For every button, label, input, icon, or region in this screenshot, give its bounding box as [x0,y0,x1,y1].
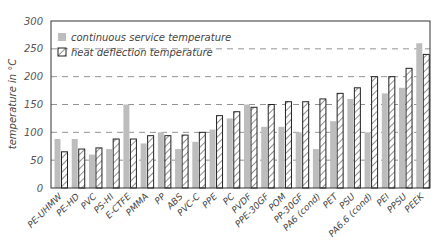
bar-continuous-service [278,127,284,188]
y-tick-label: 50 [30,155,43,166]
y-tick-label: 0 [37,183,43,194]
y-tick-label: 250 [24,43,43,54]
bar-heat-deflection [389,77,395,188]
bar-heat-deflection [320,99,326,188]
bar-continuous-service [313,149,319,188]
bar-continuous-service [123,105,129,189]
bar-continuous-service [141,143,147,188]
y-tick-label: 300 [24,16,43,27]
bar-heat-deflection [268,105,274,189]
bar-heat-deflection [285,102,291,188]
bar-heat-deflection [423,54,429,188]
bar-continuous-service [347,99,353,188]
bar-heat-deflection [337,93,343,188]
legend-swatch-gray [58,33,66,41]
bar-continuous-service [210,130,216,188]
y-axis-title: temperature in °C [7,59,18,150]
x-axis-labels: PE-UHMWPE-HDPVCPS-HIE-CTFEPMMAPPABSPVC-C… [26,190,427,239]
bar-heat-deflection [96,148,102,188]
bar-continuous-service [175,149,181,188]
bars [55,43,430,188]
bar-heat-deflection [354,88,360,188]
x-category-label: PPE [200,191,219,210]
y-axis-ticks: 050100150200250300 [24,16,43,194]
bar-heat-deflection [165,136,171,188]
legend-label-heat-deflection: heat deflection temperature [71,47,213,58]
y-tick-label: 200 [24,71,43,82]
bar-heat-deflection [113,139,119,188]
bar-continuous-service [158,132,164,188]
bar-heat-deflection [148,136,154,188]
bar-continuous-service [106,149,112,188]
bar-continuous-service [227,118,233,188]
bar-continuous-service [72,139,78,188]
bar-continuous-service [416,43,422,188]
bar-heat-deflection [372,77,378,188]
bar-heat-deflection [217,116,223,188]
bar-heat-deflection [406,68,412,188]
bar-continuous-service [261,127,267,188]
y-tick-label: 100 [24,127,43,138]
bar-heat-deflection [251,107,257,188]
bar-chart: 050100150200250300 PE-UHMWPE-HDPVCPS-HIE… [0,0,448,249]
bar-continuous-service [330,121,336,188]
x-category-label: PET [321,190,341,210]
bar-heat-deflection [79,149,85,188]
bar-continuous-service [244,105,250,189]
bar-continuous-service [296,132,302,188]
bar-continuous-service [365,132,371,188]
bar-heat-deflection [303,102,309,188]
legend-swatch-hatched [58,48,66,56]
bar-heat-deflection [130,139,136,188]
bar-continuous-service [55,139,61,188]
bar-heat-deflection [234,112,240,188]
bar-continuous-service [89,155,95,188]
bar-heat-deflection [62,152,68,188]
y-tick-label: 150 [24,99,43,110]
bar-heat-deflection [182,135,188,188]
bar-continuous-service [399,88,405,188]
bar-heat-deflection [199,132,205,188]
legend: continuous service temperature heat defl… [58,32,231,58]
bar-continuous-service [382,93,388,188]
x-category-label: PEEK [403,191,427,215]
bar-continuous-service [192,142,198,188]
legend-label-continuous: continuous service temperature [71,32,231,43]
